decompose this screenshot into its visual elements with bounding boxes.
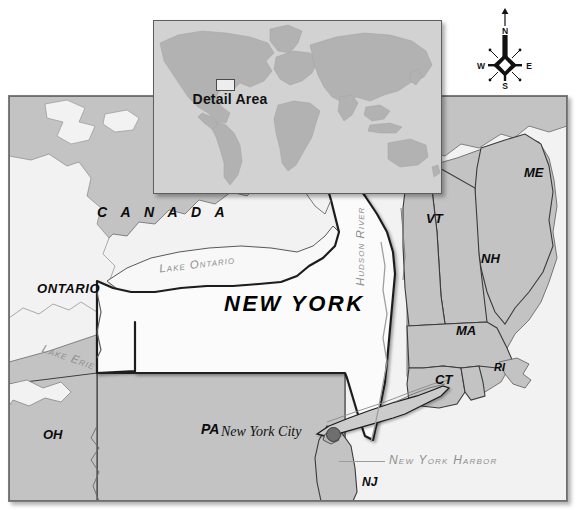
compass-graphic: N E S W [470, 8, 540, 90]
compass-label-south: S [502, 81, 508, 90]
state-pennsylvania [97, 373, 345, 501]
compass-label-east: E [526, 61, 532, 71]
map-canvas: C A N A D A ONTARIO NEW YORK Lake Ontari… [0, 0, 576, 510]
detail-area-box [216, 79, 235, 91]
compass-label-north: N [502, 26, 508, 36]
compass-needle [502, 35, 507, 57]
state-massachusetts [407, 322, 513, 368]
compass-label-west: W [477, 61, 486, 71]
world-locator-inset[interactable]: Detail Area [153, 20, 442, 194]
compass-north-arrowhead [502, 8, 509, 14]
new-york-city-marker [326, 427, 341, 442]
world-map-geometry [154, 21, 441, 193]
compass-rose: N E S W [470, 8, 540, 90]
detail-area-label: Detail Area [154, 91, 306, 107]
harbor-leader-line [339, 461, 385, 462]
